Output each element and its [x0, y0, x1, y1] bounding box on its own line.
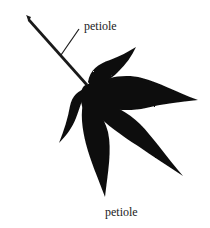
figure-caption: petiole — [105, 206, 138, 218]
leaf-diagram — [0, 0, 210, 228]
label-pointer-line — [61, 29, 79, 55]
petiole-label: petiole — [84, 20, 117, 32]
maple-leaf — [59, 47, 198, 197]
petiole-stem — [27, 16, 88, 86]
